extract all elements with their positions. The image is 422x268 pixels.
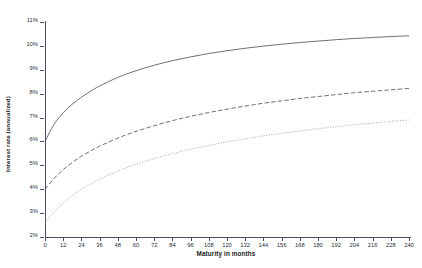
x-axis-title: Maturity in months bbox=[42, 250, 410, 257]
curve-upper-curve bbox=[45, 36, 409, 142]
curve-layer bbox=[0, 0, 422, 268]
curve-lower-curve bbox=[45, 120, 409, 223]
curve-middle-curve bbox=[45, 88, 409, 189]
interest-rate-chart: Interest rate (annualized) 2%3%4%5%6%7%8… bbox=[0, 0, 422, 268]
